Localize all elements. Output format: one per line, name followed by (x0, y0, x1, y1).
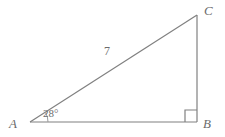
vertex-label-a: A (9, 117, 17, 130)
geometry-figure: A B C 7 28° (0, 0, 225, 137)
side-length-label-ac: 7 (104, 45, 110, 57)
right-angle-marker-icon (185, 110, 197, 122)
vertex-label-b: B (203, 117, 211, 130)
triangle-side-ac-hypotenuse (30, 15, 197, 122)
triangle-drawing (0, 0, 225, 137)
angle-label-a: 28° (43, 108, 58, 119)
vertex-label-c: C (204, 4, 213, 17)
